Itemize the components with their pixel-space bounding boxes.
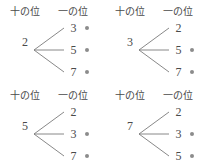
tree-leaf-digit: 2	[68, 104, 79, 120]
branch-line	[34, 112, 64, 134]
branch-line	[139, 134, 169, 156]
branch-lines	[0, 84, 105, 168]
leaf-marker-dot	[85, 70, 89, 74]
branch-lines	[105, 84, 210, 168]
branch-line	[34, 28, 64, 50]
tree-leaf-digit: 5	[68, 42, 79, 58]
tree-leaf-digit: 3	[173, 126, 184, 142]
tree-leaf-digit: 7	[173, 64, 184, 80]
branch-line	[139, 28, 169, 50]
branch-line	[34, 50, 64, 72]
tree-root-digit: 5	[19, 118, 31, 134]
leaf-marker-dot	[85, 132, 89, 136]
tree-diagram: 十の位一の位7235	[105, 84, 210, 168]
tree-leaf-digit: 7	[68, 64, 79, 80]
leaf-marker-dot	[85, 154, 89, 158]
tree-leaf-digit: 5	[173, 148, 184, 164]
tree-leaf-digit: 7	[68, 148, 79, 164]
tree-leaf-digit: 2	[173, 104, 184, 120]
tree-leaf-digit: 2	[173, 20, 184, 36]
branch-line	[139, 112, 169, 134]
tree-root-digit: 3	[124, 34, 136, 50]
tree-diagram: 十の位一の位5237	[0, 84, 105, 168]
tree-leaf-digit: 3	[68, 20, 79, 36]
leaf-marker-dot	[190, 70, 194, 74]
tree-diagram: 十の位一の位2357	[0, 0, 105, 84]
leaf-marker-dot	[190, 154, 194, 158]
tree-diagram-grid: 十の位一の位2357十の位一の位3257十の位一の位5237十の位一の位7235	[0, 0, 210, 168]
leaf-marker-dot	[85, 26, 89, 30]
branch-lines	[105, 0, 210, 84]
tree-root-digit: 7	[124, 118, 136, 134]
tree-leaf-digit: 5	[173, 42, 184, 58]
tree-leaf-digit: 3	[68, 126, 79, 142]
branch-line	[34, 134, 64, 156]
branch-lines	[0, 0, 105, 84]
branch-line	[139, 50, 169, 72]
leaf-marker-dot	[85, 48, 89, 52]
tree-diagram: 十の位一の位3257	[105, 0, 210, 84]
tree-root-digit: 2	[19, 34, 31, 50]
leaf-marker-dot	[190, 48, 194, 52]
leaf-marker-dot	[190, 132, 194, 136]
